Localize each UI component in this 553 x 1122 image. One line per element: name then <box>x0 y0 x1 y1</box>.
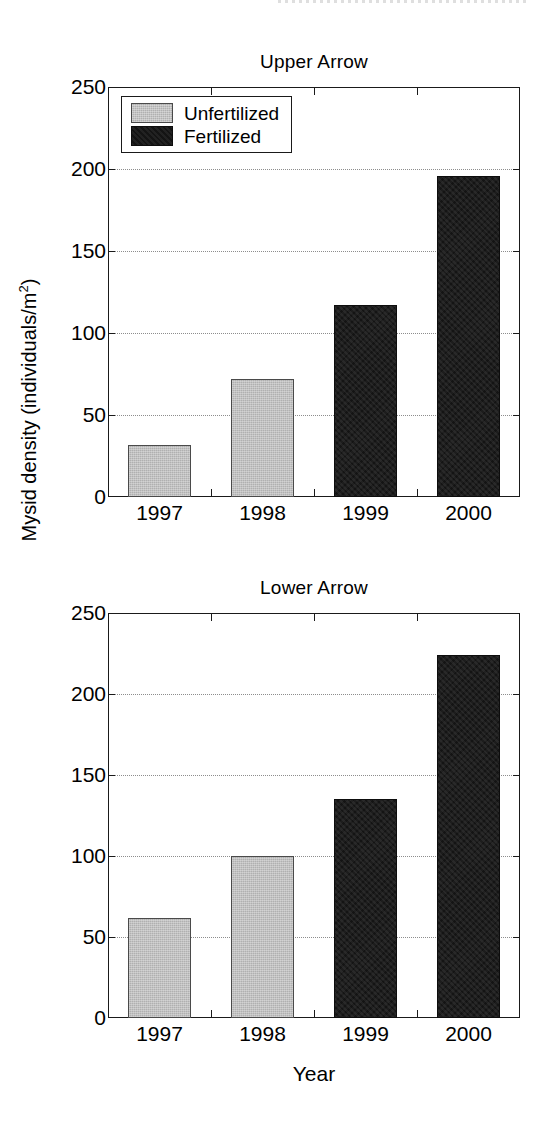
gray-square-swatch-icon <box>131 103 173 123</box>
panel-title-upper: Upper Arrow <box>108 51 520 73</box>
y-axis-tick-right <box>513 856 520 857</box>
legend-label-unfertilized: Unfertilized <box>184 104 279 123</box>
y-axis-tick-label: 100 <box>46 845 106 866</box>
y-axis-tick-label: 200 <box>46 683 106 704</box>
panel-upper-arrow: Upper Arrow 050100150200250 Unfertilized… <box>108 87 520 497</box>
legend-item-unfertilized: Unfertilized <box>131 103 279 123</box>
x-axis-tick-top <box>314 87 315 95</box>
x-axis-tick-top <box>417 87 418 95</box>
legend-label-fertilized: Fertilized <box>184 127 261 146</box>
y-axis-tick <box>108 937 115 938</box>
y-axis-tick-right <box>513 775 520 776</box>
x-axis-tick-bottom <box>314 489 315 497</box>
x-axis-tick-bottom <box>211 1010 212 1018</box>
x-axis-tick-top <box>211 613 212 621</box>
y-axis-tick-right <box>513 694 520 695</box>
legend: Unfertilized Fertilized <box>121 96 292 153</box>
y-axis-tick-label: 200 <box>46 158 106 179</box>
bar-2000 <box>437 176 501 497</box>
x-axis-tick-bottom <box>314 1010 315 1018</box>
x-axis-tick-bottom <box>211 489 212 497</box>
x-axis-tick-top <box>211 87 212 95</box>
bar-1999 <box>334 305 398 497</box>
y-axis-tick-label: 250 <box>46 76 106 97</box>
x-axis-category-label: 2000 <box>417 1023 520 1044</box>
y-axis-title-exponent: 2 <box>16 285 31 292</box>
y-axis-tick-label: 50 <box>46 926 106 947</box>
y-axis-tick <box>108 333 115 334</box>
bar-1999 <box>334 799 398 1018</box>
y-axis-tick-label: 100 <box>46 322 106 343</box>
x-axis-category-label: 1999 <box>314 1023 417 1044</box>
y-axis-tick-label: 0 <box>46 1007 106 1028</box>
x-axis-tick-bottom <box>417 1010 418 1018</box>
y-axis-tick-label: 150 <box>46 240 106 261</box>
bar-1998 <box>231 379 295 497</box>
y-axis-tick <box>108 169 115 170</box>
black-square-swatch-icon <box>131 126 173 146</box>
gridline <box>108 169 520 170</box>
bar-2000 <box>437 655 501 1018</box>
y-axis-tick-right <box>513 251 520 252</box>
x-axis-tick-bottom <box>417 489 418 497</box>
y-axis-tick-right <box>513 937 520 938</box>
y-axis-tick-label: 0 <box>46 486 106 507</box>
y-axis-tick-label: 50 <box>46 404 106 425</box>
bar-1997 <box>128 918 192 1018</box>
x-axis-category-label: 1999 <box>314 502 417 523</box>
legend-item-fertilized: Fertilized <box>131 126 279 146</box>
y-axis-tick-right <box>513 169 520 170</box>
panel-title-lower: Lower Arrow <box>108 577 520 599</box>
bar-1998 <box>231 856 295 1018</box>
y-axis-tick <box>108 775 115 776</box>
panel-lower-arrow: Lower Arrow 050100150200250 <box>108 613 520 1018</box>
y-axis-tick <box>108 856 115 857</box>
bar-1997 <box>128 445 192 497</box>
scan-artifact <box>278 0 528 3</box>
figure-mysid-density: Mysid density (individuals/m2) Upper Arr… <box>0 0 553 1122</box>
y-axis-tick-right <box>513 415 520 416</box>
y-axis-tick <box>108 694 115 695</box>
x-axis-category-label: 1998 <box>211 1023 314 1044</box>
y-axis-title-text: Mysid density (individuals/m <box>18 292 40 541</box>
x-axis-category-label: 2000 <box>417 502 520 523</box>
x-axis-category-label: 1997 <box>108 1023 211 1044</box>
y-axis-tick-label: 250 <box>46 602 106 623</box>
x-axis-tick-top <box>417 613 418 621</box>
x-axis-tick-top <box>314 613 315 621</box>
x-axis-category-label: 1998 <box>211 502 314 523</box>
x-axis-category-label: 1997 <box>108 502 211 523</box>
x-axis-title: Year <box>108 1062 520 1086</box>
y-axis-tick <box>108 251 115 252</box>
y-axis-title-close: ) <box>18 279 40 286</box>
y-axis-tick-label: 150 <box>46 764 106 785</box>
y-axis-title: Mysid density (individuals/m2) <box>16 60 41 760</box>
y-axis-tick-right <box>513 333 520 334</box>
y-axis-tick <box>108 415 115 416</box>
